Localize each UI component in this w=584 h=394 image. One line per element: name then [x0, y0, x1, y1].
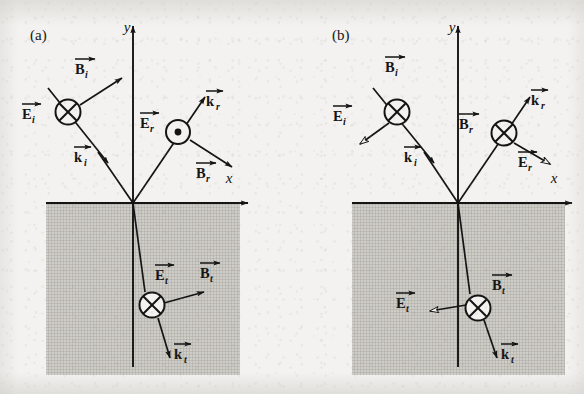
panel-a-medium-region — [46, 203, 240, 375]
panel-b-k-r-ray — [458, 97, 530, 203]
panel-b-k-i-label: k i — [404, 147, 421, 168]
panel-b-E-r-label-sub: r — [528, 162, 532, 173]
panel-a-E-r-label-base: E — [140, 115, 150, 131]
panel-b-B-i-label-base: B — [385, 59, 395, 75]
panel-b-B-r-label-base: B — [459, 116, 469, 132]
figure-canvas: (a) y x E i B i k i E — [0, 0, 584, 394]
panel-a-B-r-label-base: B — [196, 165, 206, 181]
panel-b-B-i-label-sub: i — [395, 67, 398, 78]
panel-b-B-t-circle-cross-icon — [466, 296, 491, 321]
panel-a-k-i-label-base: k — [74, 149, 83, 165]
panel-a-E-i-label-base: E — [22, 106, 32, 122]
panel-a: (a) y x E i B i k i E — [22, 19, 248, 375]
panel-a-B-i-label-base: B — [75, 61, 85, 77]
panel-b-E-i-label: E i — [333, 106, 352, 127]
panel-a-E-r-label: E r — [140, 113, 159, 134]
panel-a-B-t-label-base: B — [200, 265, 210, 281]
panel-b-E-i-arrow — [360, 123, 389, 144]
panel-a-k-i-ray-lower — [98, 152, 133, 203]
panel-b-label: (b) — [332, 27, 350, 44]
panel-a-k-i-label-sub: i — [84, 157, 87, 168]
panel-b-B-i-circle-cross-icon — [385, 100, 410, 125]
panel-b-B-t-label-base: B — [492, 277, 502, 293]
panel-b-k-r-label-sub: r — [541, 100, 545, 111]
panel-a-E-i-label: E i — [22, 104, 41, 125]
panel-a-B-i-arrow — [80, 78, 122, 105]
panel-b: (b) y x B i E i k i B r — [332, 19, 572, 375]
panel-a-k-t-label-base: k — [174, 346, 183, 362]
panel-a-label: (a) — [30, 27, 47, 44]
panel-a-y-axis-label: y — [122, 19, 131, 35]
panel-a-B-i-label: B i — [75, 59, 95, 80]
panel-b-B-i-label: B i — [385, 57, 405, 78]
panel-a-E-t-circle-cross-icon — [140, 293, 165, 318]
panel-a-B-i-label-sub: i — [85, 69, 88, 80]
panel-a-x-axis-label: x — [225, 170, 233, 186]
panel-b-E-t-label-base: E — [396, 295, 406, 311]
panel-a-k-r-label-base: k — [206, 93, 215, 109]
panel-a-k-r-label: k r — [206, 91, 223, 112]
panel-b-k-i-label-base: k — [404, 149, 413, 165]
panel-a-E-t-label-base: E — [155, 267, 165, 283]
panel-b-y-axis-label: y — [447, 19, 456, 35]
panel-b-k-r-label-base: k — [531, 92, 540, 108]
panel-b-B-r-label: B r — [459, 114, 479, 135]
panel-b-B-r-circle-cross-icon — [492, 121, 517, 146]
panel-a-E-i-label-sub: i — [32, 114, 35, 125]
panel-a-E-r-label-sub: r — [150, 123, 154, 134]
panel-b-k-i-ray-lower — [424, 152, 458, 203]
panel-b-B-r-label-sub: r — [469, 124, 473, 135]
panel-b-E-r-label-base: E — [518, 154, 528, 170]
panel-b-k-i-label-sub: i — [414, 157, 417, 168]
panel-a-E-i-circle-cross-icon — [56, 100, 81, 125]
panel-a-B-r-label-sub: r — [206, 173, 210, 184]
panel-b-E-i-label-sub: i — [343, 116, 346, 127]
panel-a-k-r-label-sub: r — [216, 101, 220, 112]
panel-b-k-r-label: k r — [531, 90, 548, 111]
panel-a-k-i-label: k i — [74, 147, 91, 168]
panel-a-B-r-label: B r — [196, 163, 216, 184]
panel-b-x-axis-label: x — [550, 170, 558, 186]
panel-b-k-t-label-base: k — [501, 346, 510, 362]
figure-root: (a) y x E i B i k i E — [0, 0, 584, 394]
panel-b-E-i-label-base: E — [333, 108, 343, 124]
panel-a-E-r-circle-dot-icon — [166, 120, 190, 144]
